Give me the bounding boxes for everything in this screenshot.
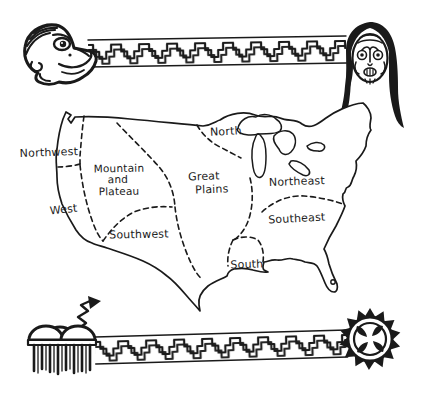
region-label-north: North [210,124,242,139]
illustration-canvas: Northwest West Mountain and Plateau Grea… [0,0,425,402]
top-step-fret-band [88,36,346,67]
region-label-great-plains-line2: Plains [195,182,229,196]
region-label-northwest: Northwest [19,145,78,160]
region-label-southwest: Southwest [109,227,169,241]
region-label-great-plains-line1: Great [188,169,221,183]
region-label-mountain-line2: and [108,173,129,185]
illustrated-regions-map-page: Northwest West Mountain and Plateau Grea… [0,0,425,402]
region-label-mountain-line3: Plateau [98,185,139,198]
region-label-south: South [230,257,263,271]
region-label-northeast: Northeast [269,174,326,189]
